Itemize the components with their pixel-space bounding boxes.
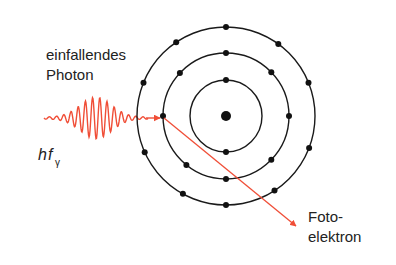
energy-h: h <box>38 146 47 163</box>
electron-middle-3 <box>177 70 183 76</box>
electron-outer-7 <box>223 202 229 208</box>
electron-outer-3 <box>173 39 179 45</box>
electron-outer-6 <box>180 191 186 197</box>
photoelectric-effect-diagram: einfallendes Photon h f γ Foto- elektron <box>0 0 396 265</box>
electron-middle-0 <box>286 113 292 119</box>
electron-outer-5 <box>142 149 148 155</box>
photoelectron-label-line2: elektron <box>308 228 361 245</box>
electron-middle-1 <box>268 69 274 75</box>
photoelectron-trajectory-arrow <box>164 118 296 226</box>
incoming-photon-label-line1: einfallendes <box>46 46 126 63</box>
photon-wave-packet <box>44 98 148 139</box>
photoelectron-label-line1: Foto- <box>308 208 343 225</box>
energy-subscript-gamma: γ <box>55 157 60 168</box>
electron-outer-9 <box>306 145 312 151</box>
electron-outer-0 <box>306 80 312 86</box>
electron-middle-5 <box>183 162 189 168</box>
electron-inner-1 <box>223 149 229 155</box>
photon-energy-label: h f γ <box>38 146 60 168</box>
electron-inner-0 <box>223 77 229 83</box>
incoming-photon-label-line2: Photon <box>46 66 94 83</box>
electron-outer-8 <box>272 188 278 194</box>
atom-model <box>137 24 315 208</box>
electron-middle-6 <box>223 176 229 182</box>
electron-outer-2 <box>223 24 229 30</box>
energy-f: f <box>48 146 54 163</box>
nucleus <box>221 111 231 121</box>
electron-middle-2 <box>223 50 229 56</box>
electron-outer-4 <box>141 80 147 86</box>
electron-outer-1 <box>275 41 281 47</box>
electron-middle-7 <box>268 157 274 163</box>
